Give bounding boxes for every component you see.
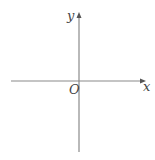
origin-label: O <box>69 83 80 96</box>
axes-drawing <box>0 0 155 160</box>
x-axis-label: x <box>143 80 150 93</box>
y-axis-label: y <box>67 9 74 22</box>
y-axis-arrow-icon <box>77 12 82 18</box>
